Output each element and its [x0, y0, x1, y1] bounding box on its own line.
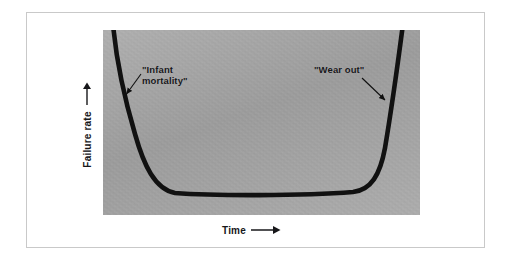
annotation-infant-mortality-line2: mortality" — [142, 75, 188, 86]
plot-area — [103, 30, 420, 215]
y-axis-label-group: Failure rate — [76, 82, 98, 194]
annotation-infant-mortality-line1: "Infant — [142, 64, 173, 75]
annotation-wear-out: "Wear out" — [314, 64, 364, 75]
bathtub-curve-line — [103, 30, 420, 215]
y-axis-label: Failure rate — [82, 103, 93, 177]
arrow-right-icon — [251, 224, 281, 236]
figure-root: "Infant mortality" "Wear out" Failure ra… — [0, 0, 511, 262]
annotation-infant-mortality: "Infant mortality" — [142, 64, 188, 86]
x-axis-label-group: Time — [222, 222, 281, 238]
x-axis-label: Time — [222, 225, 246, 236]
annotation-wear-out-line1: "Wear out" — [314, 64, 364, 75]
